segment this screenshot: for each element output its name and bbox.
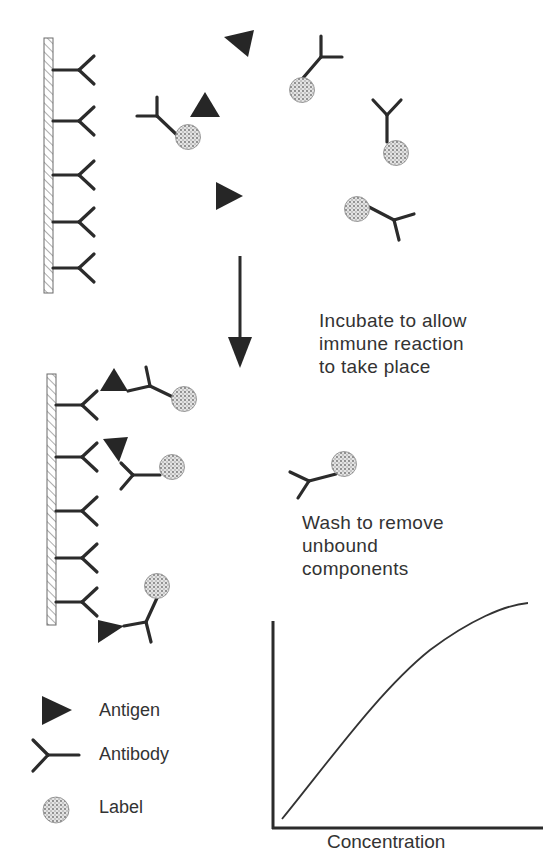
unbound-labelled-antibody	[290, 452, 357, 499]
legend-antibody-label: Antibody	[99, 744, 169, 765]
legend-label-label: Label	[99, 797, 143, 818]
wash-line-3: components	[302, 557, 444, 580]
dose-response-graph	[272, 603, 543, 829]
solid-phase-top	[44, 38, 94, 293]
wash-caption: Wash to remove unbound components	[302, 511, 444, 580]
incubate-line-2: immune reaction	[319, 332, 467, 355]
incubate-line-3: to take place	[319, 355, 467, 378]
antigen-icon	[42, 696, 72, 725]
graph-x-axis-label: Concentration	[327, 831, 445, 853]
process-arrow	[228, 256, 252, 368]
label-icon	[43, 797, 69, 823]
wash-line-2: unbound	[302, 534, 444, 557]
antibody-icon	[33, 740, 79, 771]
immunoassay-diagram	[0, 0, 557, 867]
wash-line-1: Wash to remove	[302, 511, 444, 534]
free-labelled-antibodies	[137, 36, 414, 240]
free-antigens	[190, 30, 254, 210]
sandwich-complex-3	[98, 574, 170, 644]
sandwich-complex-2	[103, 437, 185, 489]
incubate-caption: Incubate to allow immune reaction to tak…	[319, 309, 467, 378]
incubate-line-1: Incubate to allow	[319, 309, 467, 332]
legend-symbols	[33, 696, 79, 823]
solid-phase-bottom	[47, 374, 97, 625]
sandwich-complex-1	[100, 367, 197, 412]
legend-antigen-label: Antigen	[99, 700, 160, 721]
